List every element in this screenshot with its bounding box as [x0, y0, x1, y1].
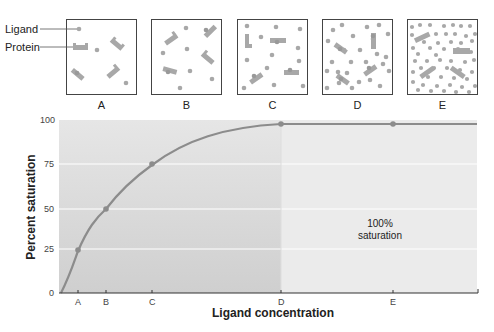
x-tick-e: E — [390, 297, 396, 307]
y-tick-0: 0 — [49, 288, 54, 298]
diagram-graphics — [0, 0, 494, 332]
annotation-line1: 100% — [330, 218, 430, 230]
x-tick-c: C — [149, 297, 156, 307]
y-tick-100: 100 — [40, 115, 55, 125]
unsaturated-region — [59, 120, 281, 293]
x-axis-title: Ligand concentration — [212, 306, 334, 320]
y-tick-25: 25 — [44, 244, 54, 254]
molecules — [71, 23, 477, 94]
y-tick-50: 50 — [44, 204, 54, 214]
x-tick-a: A — [75, 297, 81, 307]
saturation-annotation: 100% saturation — [330, 218, 430, 242]
x-tick-b: B — [103, 297, 109, 307]
y-tick-75: 75 — [44, 159, 54, 169]
y-axis-title: Percent saturation — [24, 147, 38, 267]
panel-e-ligands — [410, 23, 477, 94]
annotation-line2: saturation — [330, 230, 430, 242]
